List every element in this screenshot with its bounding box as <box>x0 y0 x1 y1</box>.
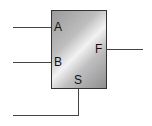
output-f-wire <box>106 49 143 50</box>
input-b-label: B <box>54 56 62 68</box>
select-s-label: S <box>74 74 82 86</box>
select-s-wire-vertical <box>78 88 79 115</box>
output-f-label: F <box>95 43 102 55</box>
input-a-label: A <box>54 21 62 33</box>
select-s-wire-horizontal <box>13 115 79 116</box>
input-a-wire <box>13 27 51 28</box>
input-b-wire <box>13 62 51 63</box>
